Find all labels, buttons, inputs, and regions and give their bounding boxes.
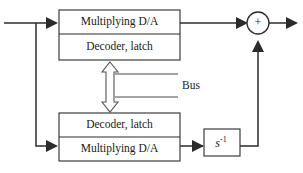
bus-label: Bus [182,79,200,91]
integrator-block[interactable]: s-1 [204,129,240,156]
feedback-wire [240,40,264,146]
bottom-block-row-0-label: Decoder, latch [86,118,153,131]
summing-junction[interactable]: + [247,12,269,34]
block-diagram-svg: Multiplying D/A Decoder, latch Decoder, … [0,0,303,173]
bottom-output-arrow-icon [192,140,204,152]
summing-junction-sign: + [255,15,262,29]
input-branch-wire [36,23,58,152]
bus-group: Bus [102,62,200,112]
input-branch-arrow-icon [46,140,58,152]
output-arrow-icon [286,17,298,29]
top-converter-block[interactable]: Multiplying D/A Decoder, latch [59,10,180,60]
top-block-row-0-label: Multiplying D/A [81,15,159,28]
top-block-row-1-label: Decoder, latch [86,40,153,53]
top-output-arrow-icon [236,17,248,29]
input-wire [4,17,58,29]
input-branch-path [36,23,55,146]
feedback-arrow-up-icon [252,40,264,52]
feedback-path [240,43,258,146]
bottom-converter-block[interactable]: Decoder, latch Multiplying D/A [59,113,180,161]
integrator-exponent: -1 [220,134,227,143]
bottom-block-row-1-label: Multiplying D/A [81,142,159,155]
output-wire [269,17,298,29]
bottom-output-wire [180,140,204,152]
block-diagram-canvas: Multiplying D/A Decoder, latch Decoder, … [0,0,303,173]
input-arrow-icon [46,17,58,29]
double-arrow-vertical-icon [102,62,118,112]
top-output-wire [180,17,248,29]
